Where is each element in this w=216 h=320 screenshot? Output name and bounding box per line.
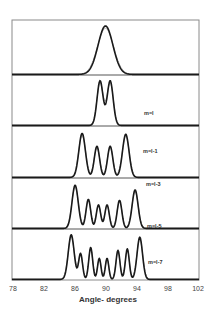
x-tick-label: 98 (164, 285, 172, 292)
measured-curve (12, 26, 199, 74)
measured-curve (12, 133, 199, 177)
fit-curve (12, 237, 199, 280)
panel-label-m-l-3: m=l-3 (146, 181, 161, 187)
panel-label-m-l-5: m=l-5 (147, 223, 162, 229)
plot-frame (12, 20, 199, 280)
x-tick-label: 90 (102, 285, 110, 292)
measured-curve (12, 185, 199, 228)
measured-curve (12, 81, 199, 126)
measured-curve (12, 235, 199, 280)
panel-label-m-l-7: m=l-7 (148, 259, 163, 265)
x-tick-label: 102 (192, 285, 204, 292)
x-axis-title: Angle- degrees (79, 295, 137, 304)
x-tick-label: 86 (71, 285, 79, 292)
panel-label-m-l: m=l (144, 110, 154, 116)
fit-curve (12, 28, 199, 74)
x-tick-label: 94 (133, 285, 141, 292)
x-tick-label: 78 (9, 285, 17, 292)
curve-group (12, 26, 199, 279)
x-tick-label: 82 (40, 285, 48, 292)
stacked-angle-chart: m=l m=l-1 m=l-3 m=l-5 m=l-7 78 82 86 90 … (0, 0, 216, 320)
panel-label-m-l-1: m=l-1 (143, 148, 158, 154)
